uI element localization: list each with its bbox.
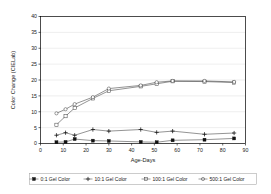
legend-entry-label: 0:1 Gel Color: [41, 176, 71, 182]
data-point-marker: [91, 96, 94, 99]
chart-figure: 0510152025303540 0102030405060708090 Col…: [0, 0, 271, 194]
data-point-marker: [73, 138, 76, 141]
legend-entry-label: 100:1 Gel Color: [153, 176, 188, 182]
data-point-marker: [107, 139, 110, 142]
data-point-marker: [55, 141, 58, 144]
data-point-marker: [155, 130, 159, 134]
series-0-1-gel-color: [55, 137, 236, 144]
x-tick-label: 30: [106, 147, 112, 153]
series-500-1-gel-color: [55, 79, 236, 115]
y-axis-ticks: 0510152025303540: [31, 13, 40, 146]
data-point-marker: [107, 129, 111, 133]
x-tick-label: 70: [197, 147, 203, 153]
x-tick-label: 90: [243, 147, 249, 153]
data-point-marker: [203, 138, 206, 141]
data-point-marker: [63, 131, 67, 135]
data-point-marker: [64, 115, 67, 118]
x-tick-label: 0: [39, 147, 42, 153]
data-point-marker: [233, 137, 236, 140]
y-tick-label: 25: [31, 61, 37, 67]
y-tick-label: 15: [31, 93, 37, 99]
data-point-marker: [232, 131, 236, 135]
y-tick-label: 35: [31, 29, 37, 35]
x-tick-label: 20: [83, 147, 89, 153]
y-tick-label: 20: [31, 77, 37, 83]
data-point-marker: [73, 133, 77, 137]
data-point-marker: [54, 133, 58, 137]
x-axis-title: Age-Days: [131, 157, 156, 163]
x-tick-label: 40: [129, 147, 135, 153]
y-tick-label: 10: [31, 109, 37, 115]
data-point-marker: [139, 127, 143, 131]
data-point-marker: [91, 127, 95, 131]
chart-legend: 0:1 Gel Color10:1 Gel Color100:1 Gel Col…: [30, 174, 257, 185]
y-tick-label: 0: [34, 140, 37, 146]
data-point-marker: [139, 140, 142, 143]
gridlines: [41, 32, 246, 127]
x-tick-label: 60: [174, 147, 180, 153]
legend-entry-label: 500:1 Gel Color: [210, 176, 245, 182]
x-tick-label: 80: [220, 147, 226, 153]
data-point-marker: [203, 79, 206, 82]
data-point-marker: [73, 103, 76, 106]
y-axis-title: Color Change (CIELab): [10, 51, 16, 110]
data-point-marker: [171, 79, 174, 82]
data-point-marker: [171, 139, 174, 142]
data-point-marker: [55, 112, 58, 115]
x-tick-label: 50: [151, 147, 157, 153]
y-tick-label: 30: [31, 45, 37, 51]
data-point-marker: [64, 108, 67, 111]
y-tick-label: 40: [31, 13, 37, 19]
data-point-marker: [107, 87, 110, 90]
data-point-marker: [202, 132, 206, 136]
legend-entry-label: 10:1 Gel Color: [95, 176, 128, 182]
data-point-marker: [139, 84, 142, 87]
y-tick-label: 5: [34, 125, 37, 131]
data-point-marker: [155, 141, 158, 144]
series-100-1-gel-color: [55, 80, 236, 127]
data-point-marker: [233, 80, 236, 83]
data-point-marker: [171, 129, 175, 133]
x-tick-label: 10: [60, 147, 66, 153]
series-10-1-gel-color: [54, 127, 236, 137]
data-point-marker: [55, 123, 58, 126]
data-point-marker: [73, 106, 76, 109]
data-point-marker: [91, 139, 94, 142]
data-point-marker: [155, 81, 158, 84]
x-axis-ticks: 0102030405060708090: [39, 144, 248, 153]
color-change-line-chart: 0510152025303540 0102030405060708090 Col…: [0, 0, 271, 194]
data-point-marker: [64, 140, 67, 143]
